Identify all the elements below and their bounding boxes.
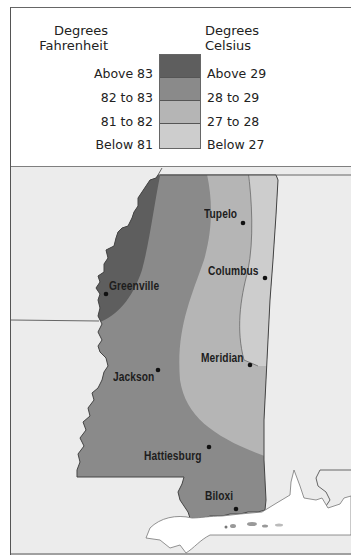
map-frame: [10, 7, 351, 555]
